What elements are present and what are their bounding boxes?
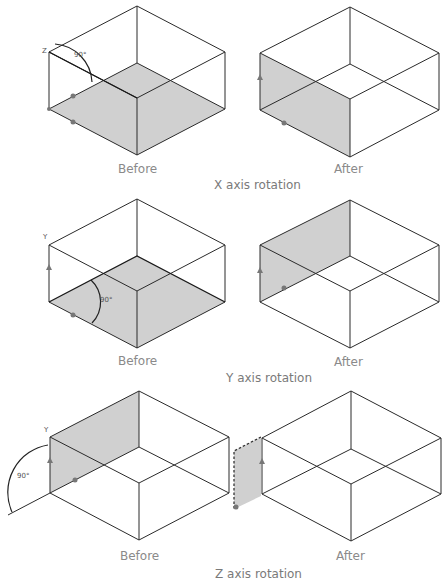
caption-after: After (334, 355, 363, 369)
row-y-rotation: 90° Y Before After Y axis rotation (42, 199, 439, 385)
angle-label: 90° (74, 51, 86, 59)
ucs-marker-icon (71, 94, 76, 99)
ucs-marker-icon (234, 505, 239, 510)
ucs-marker-icon (71, 313, 76, 318)
row-x-rotation: 90° Z Before After X axis rotation (42, 6, 439, 192)
ucs-marker-icon (282, 121, 287, 126)
ucs-marker-icon (73, 478, 78, 483)
shaded-back-left-face (260, 200, 350, 302)
axis-label: Y (43, 426, 49, 434)
caption-after: After (334, 162, 363, 176)
row-title: Y axis rotation (225, 371, 312, 385)
angle-label: 90° (17, 472, 29, 480)
ucs-marker-icon (71, 120, 76, 125)
box-before-x: 90° Z (42, 6, 225, 155)
shaded-front-left-face (260, 53, 350, 157)
box-after-x (257, 7, 439, 157)
axis-label: Y (42, 233, 48, 241)
axis-label: Z (42, 47, 47, 55)
caption-before: Before (118, 354, 157, 368)
box-after-y (257, 200, 439, 348)
row-title: Z axis rotation (215, 567, 302, 581)
ucs-origin-icon (47, 107, 51, 111)
caption-before: Before (120, 549, 159, 563)
caption-after: After (336, 549, 365, 563)
angle-label: 90° (100, 296, 112, 304)
arrow-up-icon (46, 264, 52, 270)
shaded-rotated-panel (234, 437, 261, 509)
shaded-back-left-face (50, 391, 139, 493)
caption-before: Before (118, 162, 157, 176)
box-before-y: 90° Y (42, 199, 225, 348)
row-z-rotation: 90° Y Before After Z axis rotation (8, 391, 441, 581)
rotation-diagram: 90° Z Before After X axis rotation (0, 0, 448, 583)
row-title: X axis rotation (214, 178, 301, 192)
box-after-z (234, 391, 442, 541)
ucs-marker-icon (282, 286, 287, 291)
box-before-z: 90° Y (8, 391, 229, 540)
